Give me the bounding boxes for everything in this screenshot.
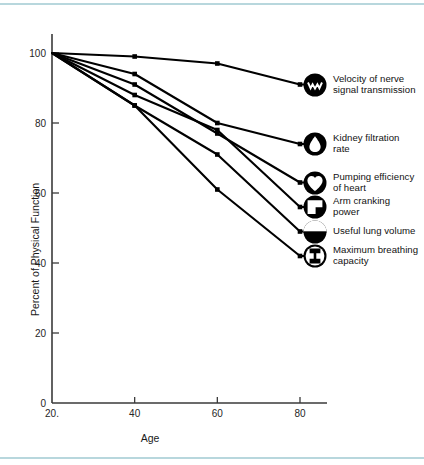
heart-icon [303,171,327,195]
series-marker-5-60 [215,187,220,192]
x-tick-label-40: 40 [129,408,141,419]
nerve-signal-icon [303,73,327,97]
legend-item-5[interactable]: Maximum breathing capacity [303,244,418,268]
top-divider-rule [0,3,424,5]
series-line-4 [52,53,300,232]
legend-label-0: Velocity of nerve signal transmission [333,74,416,95]
y-tick-label-80: 80 [35,118,47,129]
series-markers-group [132,54,302,258]
figure-page: 020406080100 20.406080 Percent of Physic… [0,0,424,465]
series-marker-0-60 [215,61,220,66]
arm-crank-icon [303,195,327,219]
x-tick-label-60: 60 [212,408,224,419]
legend-item-1[interactable]: Kidney filtration rate [303,132,399,156]
legend-label-2: Pumping efficiency of heart [333,172,414,193]
x-tick-label-80: 80 [294,408,306,419]
legend-item-4[interactable]: Useful lung volume [303,220,416,244]
legend-label-1: Kidney filtration rate [333,133,399,154]
series-marker-1-60 [215,121,220,126]
series-marker-3-40 [132,93,137,98]
x-axis-title: Age [0,432,300,444]
series-marker-1-40 [132,72,137,77]
y-tick-label-0: 0 [40,398,46,409]
legend-item-3[interactable]: Arm cranking power [303,195,390,219]
series-marker-4-60 [215,152,220,157]
series-line-0 [52,53,300,85]
breathing-capacity-icon [303,244,327,268]
y-tick-label-100: 100 [29,48,46,59]
lung-volume-icon [303,220,327,244]
legend-label-5: Maximum breathing capacity [333,245,418,266]
series-line-5 [52,53,300,256]
series-marker-5-40 [132,103,137,108]
series-marker-3-60 [215,128,220,133]
line-chart-figure: 020406080100 20.406080 Percent of Physic… [0,6,424,456]
series-marker-2-40 [132,82,137,87]
x-tick-label-20: 20. [45,408,59,419]
series-lines-group [52,53,300,256]
legend-item-0[interactable]: Velocity of nerve signal transmission [303,73,416,97]
y-axis-title: Percent of Physical Function [16,156,30,316]
x-axis-ticks: 20.406080 [45,397,306,419]
legend-label-4: Useful lung volume [333,226,416,237]
legend-item-2[interactable]: Pumping efficiency of heart [303,171,414,195]
y-axis-title-text: Percent of Physical Function [29,183,41,316]
series-marker-0-40 [132,54,137,59]
bottom-divider-rule [0,457,424,459]
y-tick-label-20: 20 [35,328,47,339]
kidney-droplet-icon [303,132,327,156]
legend-label-3: Arm cranking power [333,196,390,217]
